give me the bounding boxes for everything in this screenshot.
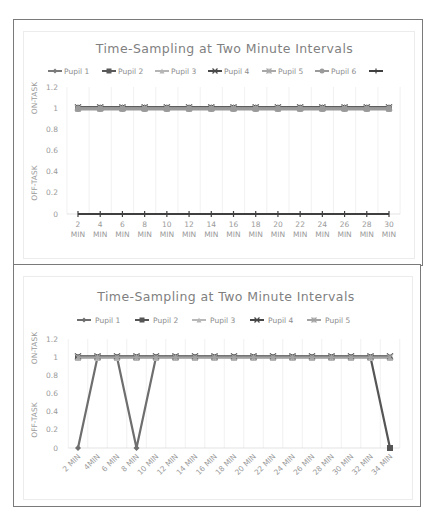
chart-1: Time-Sampling at Two Minute IntervalsPup…: [30, 41, 400, 239]
y-tick-label: 0.8: [46, 371, 58, 380]
svg-text:Pupil 1: Pupil 1: [64, 67, 89, 76]
x-tick-label: MIN: [382, 230, 396, 239]
svg-text:Pupil 4: Pupil 4: [268, 316, 293, 325]
svg-text:Pupil 2: Pupil 2: [153, 316, 178, 325]
legend-item-2: Pupil 2: [102, 67, 143, 76]
y-tick-label: 0.4: [46, 407, 58, 416]
legend-item-7: [369, 69, 383, 74]
y-label-off-task: OFF-TASK: [30, 164, 39, 200]
y-label-on-task: ON-TASK: [30, 331, 39, 364]
svg-text:Pupil 3: Pupil 3: [171, 67, 196, 76]
x-tick-label: MIN: [249, 230, 263, 239]
x-tick-label: 26: [340, 220, 350, 229]
x-tick-label: 4: [98, 220, 103, 229]
svg-text:Pupil 5: Pupil 5: [325, 316, 350, 325]
x-tick-label: 14: [207, 220, 217, 229]
x-tick-label: 24: [318, 220, 328, 229]
legend-item-3: Pupil 3: [155, 67, 196, 76]
y-tick-label: 1.2: [46, 335, 58, 344]
x-tick-label: 10: [162, 220, 172, 229]
chart-2: Time-Sampling at Two Minute IntervalsPup…: [30, 289, 400, 477]
x-tick-label: MIN: [337, 230, 351, 239]
chart-title: Time-Sampling at Two Minute Intervals: [96, 289, 354, 304]
y-tick-label: 1.2: [46, 83, 58, 92]
series-pupil-6: [75, 106, 392, 112]
x-tick-label: 2 MIN: [61, 452, 83, 474]
x-tick-label: MIN: [315, 230, 329, 239]
y-tick-label: 0.6: [46, 389, 58, 398]
legend: Pupil 1Pupil 2Pupil 3Pupil 4Pupil 5: [77, 316, 350, 325]
y-label-on-task: ON-TASK: [30, 81, 39, 114]
x-tick-label: 6: [120, 220, 125, 229]
y-tick-label: 0.2: [46, 188, 58, 197]
x-tick-label: MIN: [182, 230, 196, 239]
svg-text:Pupil 3: Pupil 3: [210, 316, 235, 325]
legend: Pupil 1Pupil 2Pupil 3Pupil 4Pupil 5Pupil…: [48, 67, 383, 76]
x-tick-label: MIN: [93, 230, 107, 239]
x-tick-label: 34 MIN: [369, 452, 394, 477]
x-tick-label: MIN: [137, 230, 151, 239]
series-pupil-5: [75, 354, 393, 360]
legend-item-5: Pupil 5: [262, 67, 303, 76]
legend-item-4: Pupil 4: [208, 67, 249, 76]
x-tick-label: 20: [273, 220, 283, 229]
legend-item-1: Pupil 1: [48, 67, 89, 76]
y-tick-label: 1: [53, 104, 58, 113]
x-tick-label: MIN: [71, 230, 85, 239]
y-tick-label: 0.2: [46, 425, 58, 434]
charts-canvas: Time-Sampling at Two Minute IntervalsPup…: [0, 0, 435, 515]
svg-text:Pupil 2: Pupil 2: [118, 67, 143, 76]
y-tick-label: 0.6: [46, 146, 58, 155]
svg-text:Pupil 6: Pupil 6: [331, 67, 356, 76]
series-unnamed: [78, 211, 389, 217]
legend-item-6: Pupil 6: [315, 67, 356, 76]
legend-item-2: Pupil 2: [135, 316, 178, 325]
x-tick-label: 4MIN: [82, 452, 102, 472]
legend-item-5: Pupil 5: [307, 316, 350, 325]
x-tick-label: MIN: [293, 230, 307, 239]
series-pupil-2: [75, 354, 393, 451]
x-tick-label: 12: [184, 220, 194, 229]
x-tick-label: 30: [384, 220, 394, 229]
legend-item-3: Pupil 3: [192, 316, 235, 325]
x-tick-label: MIN: [226, 230, 240, 239]
chart-title: Time-Sampling at Two Minute Intervals: [95, 41, 353, 56]
legend-item-1: Pupil 1: [77, 316, 120, 325]
x-tick-label: 16: [229, 220, 239, 229]
svg-text:Pupil 4: Pupil 4: [224, 67, 249, 76]
x-tick-label: MIN: [204, 230, 218, 239]
x-tick-label: MIN: [160, 230, 174, 239]
y-label-off-task: OFF-TASK: [30, 401, 39, 437]
x-tick-label: 28: [362, 220, 372, 229]
x-tick-label: 22: [295, 220, 305, 229]
x-tick-label: MIN: [271, 230, 285, 239]
y-tick-label: 1: [53, 353, 58, 362]
x-tick-label: MIN: [115, 230, 129, 239]
y-tick-label: 0.4: [46, 167, 58, 176]
x-tick-label: MIN: [360, 230, 374, 239]
svg-text:Pupil 5: Pupil 5: [278, 67, 303, 76]
x-tick-label: 2: [76, 220, 81, 229]
y-tick-label: 0: [53, 210, 58, 219]
svg-text:Pupil 1: Pupil 1: [95, 316, 120, 325]
x-tick-label: 6 MIN: [100, 452, 122, 474]
x-tick-label: 18: [251, 220, 261, 229]
y-tick-label: 0: [53, 444, 58, 453]
series-pupil-1: [75, 354, 393, 451]
y-tick-label: 0.8: [46, 125, 58, 134]
legend-item-4: Pupil 4: [250, 316, 293, 325]
x-tick-label: 8: [142, 220, 147, 229]
